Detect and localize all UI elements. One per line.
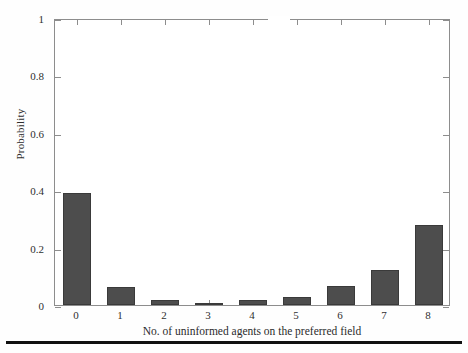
y-axis-tick-label: 1 [39,14,45,25]
y-axis-title: Probability [14,74,26,194]
y-axis-tick-label: 0.6 [30,128,44,139]
bar [195,303,222,305]
x-axis-tick-label: 7 [381,309,387,322]
x-axis-tick-label: 3 [205,309,211,322]
bar [239,300,266,305]
plot-area [54,19,450,306]
x-axis-tick-label: 5 [293,309,299,322]
bar [107,287,134,305]
x-axis-tick-label: 4 [249,309,255,322]
figure-panel: 00.20.40.60.81 Probability 012345678 No.… [0,0,468,353]
y-axis-tick-label: 0.2 [30,243,44,254]
bar [371,270,398,305]
y-axis-tick [55,307,61,308]
page-separator-rule [6,341,462,344]
x-axis-tick-label: 2 [161,309,167,322]
x-axis-tick-label: 1 [117,309,123,322]
x-axis-tick-label: 0 [73,309,79,322]
x-axis-tick-label: 8 [425,309,431,322]
x-axis-title: No. of uninformed agents on the preferre… [54,325,450,337]
bar [283,297,310,305]
y-axis-tick-label: 0 [39,301,45,312]
bar [151,300,178,305]
bar [63,193,90,305]
y-axis-tick-label: 0.8 [30,71,44,82]
scan-artifact-gap [268,16,290,22]
y-axis-tick-right [443,307,449,308]
x-axis-tick-labels: 012345678 [54,309,450,325]
bar [415,225,442,305]
x-axis-tick-label: 6 [337,309,343,322]
bar [327,286,354,305]
y-axis-tick-label: 0.4 [30,186,44,197]
bars-layer [55,20,449,305]
